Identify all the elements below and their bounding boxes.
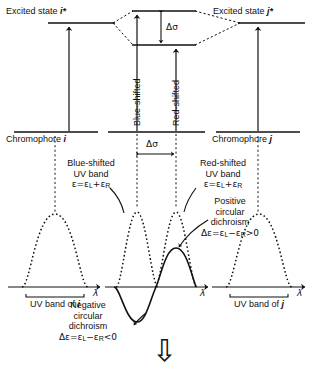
positive-cd-line1: Positive bbox=[186, 196, 274, 207]
right-band-width-bracket bbox=[230, 294, 288, 297]
right-excited-state-symbol: j* bbox=[267, 6, 273, 16]
red-band-annotation: Red-shifted UV band ε=εL+εR bbox=[180, 158, 266, 192]
positive-cd-line3: dichroism bbox=[186, 217, 274, 228]
left-plot-caption: UV band of i bbox=[10, 299, 100, 310]
negative-cd-line3: dichroism bbox=[40, 321, 136, 332]
blue-shifted-transition-label: Blue-shifted bbox=[132, 78, 142, 126]
right-plot-caption: UV band of j bbox=[214, 299, 304, 310]
blue-band-formula: ε=εL+εR bbox=[48, 179, 134, 192]
splitting-label-bottom: Δσ bbox=[146, 139, 158, 150]
left-plot bbox=[8, 214, 100, 297]
center-axis-label: λ bbox=[200, 288, 205, 299]
red-shifted-transition-label: Red-shifted bbox=[171, 80, 181, 126]
right-caption-text: UV band of bbox=[234, 299, 282, 309]
left-caption-symbol: i bbox=[78, 299, 81, 309]
right-chromophore-symbol: j bbox=[270, 134, 273, 144]
left-band-width-bracket bbox=[26, 294, 84, 297]
right-excited-state-label: Excited state j* bbox=[213, 6, 273, 17]
left-caption-text: UV band of bbox=[30, 299, 78, 309]
positive-cd-line2: circular bbox=[186, 207, 274, 218]
blue-band-line2: UV band bbox=[48, 169, 134, 180]
blue-band-annotation: Blue-shifted UV band ε=εL+εR bbox=[48, 158, 134, 192]
left-excited-state-symbol: i* bbox=[60, 6, 66, 16]
left-excited-state-label: Excited state i* bbox=[6, 6, 66, 17]
figure-canvas: Excited state i* Excited state j* Δσ Δσ … bbox=[0, 0, 314, 375]
right-caption-symbol: j bbox=[282, 299, 285, 309]
red-band-line1: Red-shifted bbox=[180, 158, 266, 169]
left-axis-label: λ bbox=[93, 288, 98, 299]
blue-band-line1: Blue-shifted bbox=[48, 158, 134, 169]
red-band-line2: UV band bbox=[180, 169, 266, 180]
left-chromophore-label: Chromophore i bbox=[6, 134, 66, 145]
blue-band-leader bbox=[110, 188, 124, 213]
right-chromophore-label: Chromophore j bbox=[212, 134, 272, 145]
negative-cd-line2: circular bbox=[40, 311, 136, 322]
red-band-formula: ε=εL+εR bbox=[180, 179, 266, 192]
left-chromophore-symbol: i bbox=[64, 134, 67, 144]
positive-cd-annotation: Positive circular dichroism Δε=εL−εR>0 bbox=[186, 196, 274, 240]
negative-cd-formula: Δε=εL−εR<0 bbox=[40, 332, 136, 345]
splitting-label-top: Δσ bbox=[166, 22, 178, 33]
down-arrow-icon: ⇩ bbox=[152, 336, 177, 366]
positive-cd-formula: Δε=εL−εR>0 bbox=[186, 228, 274, 241]
right-axis-label: λ bbox=[297, 288, 302, 299]
blue-shifted-uv-band-curve bbox=[116, 212, 158, 287]
left-uv-band-curve bbox=[22, 214, 88, 287]
